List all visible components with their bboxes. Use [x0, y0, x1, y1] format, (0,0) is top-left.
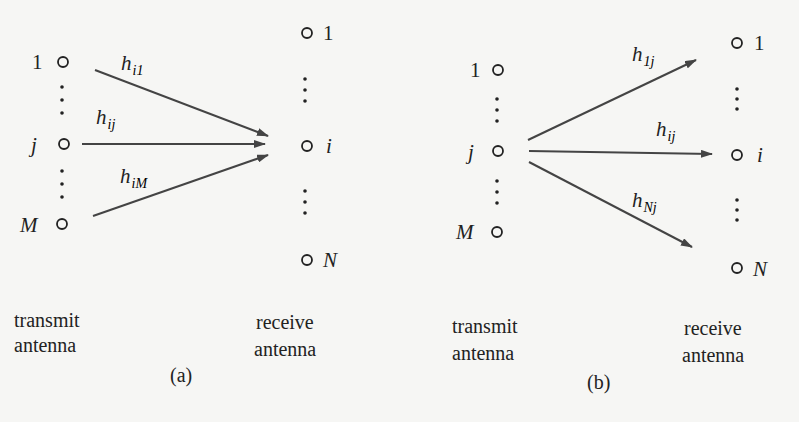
- tx-node-M-label: M: [19, 213, 39, 237]
- ellipsis-dot: [495, 108, 499, 112]
- panel-b-receive-antennas: 1 i N: [732, 31, 768, 281]
- rx-node-N-label: N: [322, 248, 338, 272]
- transmit-antenna-caption-line2: antenna: [14, 334, 76, 356]
- panel-a: 1 j M 1 i N: [14, 21, 338, 387]
- ellipsis-dot: [60, 169, 64, 173]
- rx-node-N: [302, 255, 312, 265]
- rx-node-1: [302, 28, 312, 38]
- panel-a-tag: (a): [170, 364, 192, 387]
- ellipsis-dot: [303, 200, 307, 204]
- ellipsis-dot: [60, 182, 64, 186]
- edge-label-h-ij: hij: [96, 105, 115, 132]
- tx-node-1: [493, 65, 503, 75]
- ellipsis-dot: [735, 107, 739, 111]
- panel-b-transmit-antennas: 1 j M: [455, 58, 503, 244]
- rx-node-N: [732, 263, 742, 273]
- ellipsis-dot: [735, 218, 739, 222]
- rx-node-1-label: 1: [754, 31, 765, 55]
- receive-antenna-caption-line1: receive: [684, 317, 742, 339]
- ellipsis-dot: [495, 179, 499, 183]
- tx-node-j-label: j: [465, 140, 474, 164]
- ellipsis-dot: [303, 211, 307, 215]
- ellipsis-dot: [495, 190, 499, 194]
- tx-node-j-label: j: [28, 133, 37, 157]
- transmit-antenna-caption-line2: antenna: [452, 342, 514, 364]
- ellipsis-dot: [495, 97, 499, 101]
- ellipsis-dot: [303, 77, 307, 81]
- rx-node-N-label: N: [752, 257, 768, 281]
- receive-antenna-caption-line1: receive: [256, 311, 314, 333]
- tx-node-1-label: 1: [32, 50, 43, 74]
- transmit-antenna-caption-line1: transmit: [14, 309, 80, 331]
- mimo-channel-diagram: 1 j M 1 i N: [0, 0, 799, 422]
- edge-label-h-Nj: hNj: [632, 188, 657, 215]
- edge-arrow-Nj: [529, 162, 692, 247]
- ellipsis-dot: [303, 88, 307, 92]
- rx-node-i-label: i: [757, 143, 763, 167]
- ellipsis-dot: [735, 97, 739, 101]
- panel-b: 1 j M 1 i N: [452, 31, 768, 394]
- edge-label-h-i1: hi1: [121, 51, 143, 78]
- rx-node-i: [732, 150, 742, 160]
- receive-antenna-caption-line2: antenna: [254, 338, 316, 360]
- panel-a-transmit-antennas: 1 j M: [19, 50, 69, 237]
- tx-node-M-label: M: [455, 220, 475, 244]
- rx-node-i: [302, 141, 312, 151]
- ellipsis-dot: [60, 85, 64, 89]
- ellipsis-dot: [60, 111, 64, 115]
- ellipsis-dot: [60, 195, 64, 199]
- edge-arrow-1j: [528, 60, 696, 140]
- ellipsis-dot: [735, 87, 739, 91]
- tx-node-1-label: 1: [470, 58, 481, 82]
- tx-node-M: [492, 227, 502, 237]
- ellipsis-dot: [735, 198, 739, 202]
- ellipsis-dot: [303, 189, 307, 193]
- tx-node-M: [57, 219, 67, 229]
- ellipsis-dot: [60, 98, 64, 102]
- panel-a-receive-antennas: 1 i N: [302, 21, 338, 272]
- ellipsis-dot: [495, 119, 499, 123]
- edge-label-h-iM: hiM: [120, 164, 148, 191]
- ellipsis-dot: [303, 99, 307, 103]
- panel-b-tag: (b): [587, 371, 610, 394]
- edge-label-h-ij: hij: [656, 117, 675, 144]
- tx-node-j: [493, 146, 503, 156]
- receive-antenna-caption-line2: antenna: [682, 344, 744, 366]
- edge-label-h-1j: h1j: [632, 42, 655, 69]
- rx-node-1-label: 1: [323, 21, 334, 45]
- rx-node-1: [732, 38, 742, 48]
- edge-arrow-i1: [95, 70, 268, 136]
- tx-node-1: [58, 57, 68, 67]
- edge-arrow-ij: [529, 151, 712, 154]
- ellipsis-dot: [495, 201, 499, 205]
- tx-node-j: [59, 139, 69, 149]
- transmit-antenna-caption-line1: transmit: [452, 315, 518, 337]
- rx-node-i-label: i: [326, 134, 332, 158]
- ellipsis-dot: [735, 208, 739, 212]
